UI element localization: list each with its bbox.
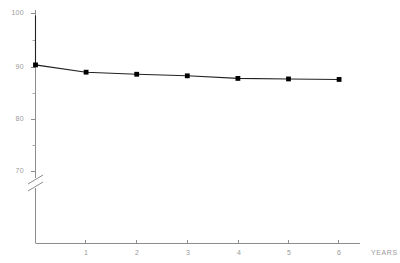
data-point-marker: [236, 76, 241, 81]
data-point-marker: [84, 70, 89, 75]
x-axis-title: YEARS: [371, 249, 398, 256]
y-axis-label-80: 80: [2, 115, 24, 122]
x-axis-label-2: 2: [130, 249, 144, 256]
x-axis-label-3: 3: [181, 249, 195, 256]
chart-plot-area: [0, 0, 400, 263]
y-axis-label-100: 100: [2, 9, 24, 16]
x-axis-label-4: 4: [232, 249, 246, 256]
data-point-marker: [33, 63, 38, 68]
x-axis-label-5: 5: [282, 249, 296, 256]
data-point-marker: [337, 77, 342, 82]
y-axis-label-90: 90: [2, 63, 24, 70]
x-axis-label-6: 6: [332, 249, 346, 256]
data-point-marker: [134, 72, 139, 77]
data-point-marker: [185, 73, 190, 78]
chart-container: 100 90 80 70 1 2 3 4 5 6 YEARS: [0, 0, 400, 263]
y-axis-label-70: 70: [2, 167, 24, 174]
data-line-survival: [36, 16, 340, 80]
x-axis-label-1: 1: [79, 249, 93, 256]
data-point-marker: [286, 77, 291, 82]
